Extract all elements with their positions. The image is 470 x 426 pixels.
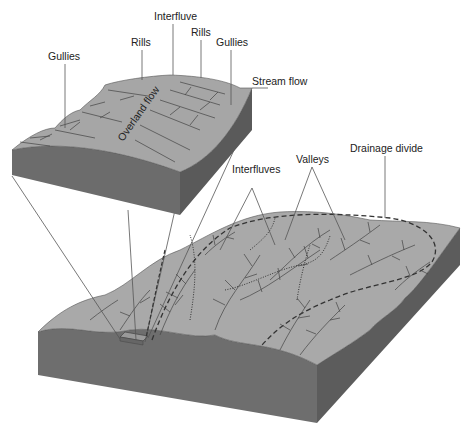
label-interfluve: Interfluve <box>154 10 197 22</box>
main-block <box>38 212 460 423</box>
label-gullies-left: Gullies <box>48 50 80 62</box>
drainage-basin-diagram: Gullies Rills Interfluve Rills Gullies S… <box>0 0 470 426</box>
label-rills-right: Rills <box>191 26 211 38</box>
label-stream-flow: Stream flow <box>252 75 308 87</box>
label-drainage-divide: Drainage divide <box>350 142 423 154</box>
label-valleys: Valleys <box>296 153 329 165</box>
label-rills-left: Rills <box>131 36 151 48</box>
label-gullies-right: Gullies <box>216 36 248 48</box>
label-interfluves: Interfluves <box>232 163 280 175</box>
inset-block <box>12 75 252 215</box>
